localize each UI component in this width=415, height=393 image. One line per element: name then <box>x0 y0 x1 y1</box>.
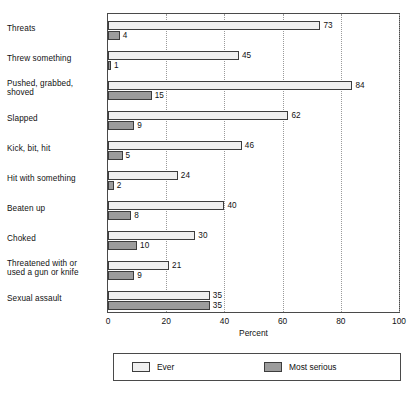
category-label-line: Slapped <box>7 114 107 124</box>
bar-value-ever: 35 <box>213 291 222 300</box>
gridline-100 <box>399 14 401 312</box>
bar-value-ever: 40 <box>227 201 236 210</box>
bar-value-most-serious: 10 <box>140 241 149 250</box>
chart-legend: Ever Most serious <box>113 353 401 381</box>
bar-value-ever: 84 <box>355 81 364 90</box>
bar-ever <box>108 231 195 240</box>
bar-most-serious <box>108 91 152 100</box>
legend-item-most-serious: Most serious <box>264 362 336 372</box>
bar-most-serious <box>108 61 111 70</box>
bar-value-most-serious: 15 <box>155 91 164 100</box>
category-label-line: Threatened with or <box>7 259 107 269</box>
category-label: Slapped <box>7 114 107 124</box>
legend-item-ever: Ever <box>132 362 174 372</box>
x-axis-title: Percent <box>107 328 400 338</box>
bar-value-ever: 46 <box>245 141 254 150</box>
legend-label-ever: Ever <box>157 362 174 372</box>
bar-ever <box>108 201 224 210</box>
category-label-line: Threw something <box>7 54 107 64</box>
x-tick-20: 20 <box>162 316 171 326</box>
bar-value-ever: 45 <box>242 51 251 60</box>
category-label: Threatened with orused a gun or knife <box>7 259 107 278</box>
bar-value-most-serious: 4 <box>123 31 128 40</box>
bar-value-ever: 21 <box>172 261 181 270</box>
category-label: Threw something <box>7 54 107 64</box>
x-tick-40: 40 <box>220 316 229 326</box>
bar-value-ever: 62 <box>291 111 300 120</box>
x-tick-80: 80 <box>336 316 345 326</box>
category-label-line: Pushed, grabbed, <box>7 79 107 89</box>
category-label: Threats <box>7 24 107 34</box>
legend-swatch-most-serious <box>264 362 282 372</box>
category-label-line: Kick, bit, hit <box>7 144 107 154</box>
bar-ever <box>108 21 320 30</box>
x-tick-0: 0 <box>106 316 111 326</box>
bar-most-serious <box>108 121 134 130</box>
category-label: Pushed, grabbed,shoved <box>7 79 107 98</box>
category-label: Kick, bit, hit <box>7 144 107 154</box>
bar-most-serious <box>108 181 114 190</box>
bar-ever <box>108 51 239 60</box>
bar-most-serious <box>108 271 134 280</box>
category-label-line: used a gun or knife <box>7 268 107 278</box>
category-label-line: Hit with something <box>7 174 107 184</box>
category-label-line: Choked <box>7 234 107 244</box>
bar-ever <box>108 261 169 270</box>
bar-value-most-serious: 8 <box>134 211 139 220</box>
bar-most-serious <box>108 241 137 250</box>
bar-value-ever: 73 <box>323 21 332 30</box>
bar-value-most-serious: 5 <box>126 151 131 160</box>
legend-swatch-ever <box>132 362 150 372</box>
bar-value-most-serious: 9 <box>137 121 142 130</box>
bar-value-most-serious: 1 <box>114 61 119 70</box>
plot-area: 734451841562946524240830102193535 <box>107 13 400 313</box>
bar-most-serious <box>108 301 210 310</box>
bar-most-serious <box>108 151 123 160</box>
bar-ever <box>108 111 288 120</box>
category-label: Sexual assault <box>7 294 107 304</box>
x-tick-100: 100 <box>392 316 406 326</box>
bar-most-serious <box>108 31 120 40</box>
bar-ever <box>108 141 242 150</box>
category-label-line: Threats <box>7 24 107 34</box>
legend-label-most-serious: Most serious <box>289 362 336 372</box>
bar-value-ever: 30 <box>198 231 207 240</box>
bar-value-most-serious: 2 <box>117 181 122 190</box>
chart-page: 734451841562946524240830102193535 Threat… <box>0 0 415 393</box>
bar-ever <box>108 171 178 180</box>
bar-value-most-serious: 35 <box>213 301 222 310</box>
bar-ever <box>108 291 210 300</box>
category-label-line: Sexual assault <box>7 294 107 304</box>
bar-value-ever: 24 <box>181 171 190 180</box>
category-label-line: Beaten up <box>7 204 107 214</box>
category-label: Choked <box>7 234 107 244</box>
bar-value-most-serious: 9 <box>137 271 142 280</box>
bar-ever <box>108 81 352 90</box>
bar-rows: 734451841562946524240830102193535 <box>108 14 399 312</box>
x-tick-60: 60 <box>278 316 287 326</box>
category-label: Hit with something <box>7 174 107 184</box>
bar-most-serious <box>108 211 131 220</box>
category-label: Beaten up <box>7 204 107 214</box>
category-label-line: shoved <box>7 88 107 98</box>
